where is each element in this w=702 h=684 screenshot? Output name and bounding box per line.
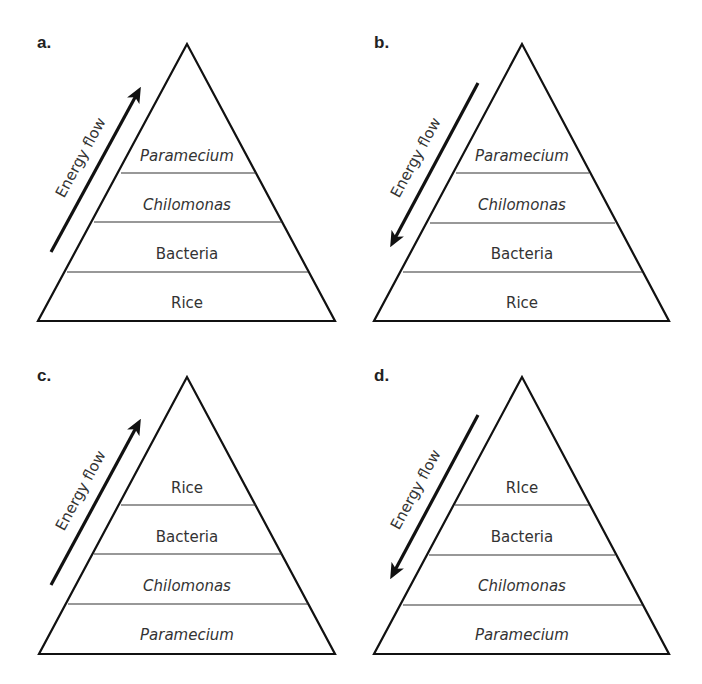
panel-label: d. [374, 366, 389, 385]
panel-label: a. [37, 33, 51, 52]
tier-label-bottom: Rice [171, 294, 203, 312]
pyramid-outline [38, 44, 335, 321]
tier-label-bottom: Paramecium [475, 626, 569, 644]
tier-label-second: Chilomonas [143, 196, 231, 214]
tier-label-top: Rice [171, 479, 203, 497]
tier-label-bottom: Rice [506, 294, 538, 312]
pyramid-outline [39, 377, 335, 654]
tier-label-second: Chilomonas [478, 196, 566, 214]
tier-label-top: Paramecium [475, 147, 569, 165]
energy-flow-label: Energy flow [387, 115, 445, 201]
tier-label-second: Bacteria [156, 528, 218, 546]
tier-label-second: Bacteria [491, 528, 553, 546]
tier-label-top: RIce [506, 479, 538, 497]
tier-label-third: Chilomonas [143, 577, 231, 595]
tier-label-third: Chilomonas [478, 577, 566, 595]
tier-label-top: Paramecium [140, 147, 234, 165]
panel-b: b. Paramecium Chilomonas Bacteria Rice E… [374, 33, 669, 321]
energy-flow-label: Energy flow [387, 447, 445, 533]
tier-label-third: Bacteria [491, 245, 553, 263]
tier-label-third: Bacteria [156, 245, 218, 263]
panel-a: a. Paramecium Chilomonas Bacteria Rice E… [37, 33, 335, 321]
panel-label: c. [37, 366, 51, 385]
energy-pyramid-figure: a. Paramecium Chilomonas Bacteria Rice E… [0, 0, 702, 684]
tier-label-bottom: Paramecium [140, 626, 234, 644]
panel-label: b. [374, 33, 389, 52]
panel-c: c. Rice Bacteria Chilomonas Paramecium E… [37, 366, 335, 654]
panel-d: d. RIce Bacteria Chilomonas Paramecium E… [374, 366, 669, 654]
pyramid-outline [374, 377, 669, 654]
pyramid-outline [374, 44, 669, 321]
